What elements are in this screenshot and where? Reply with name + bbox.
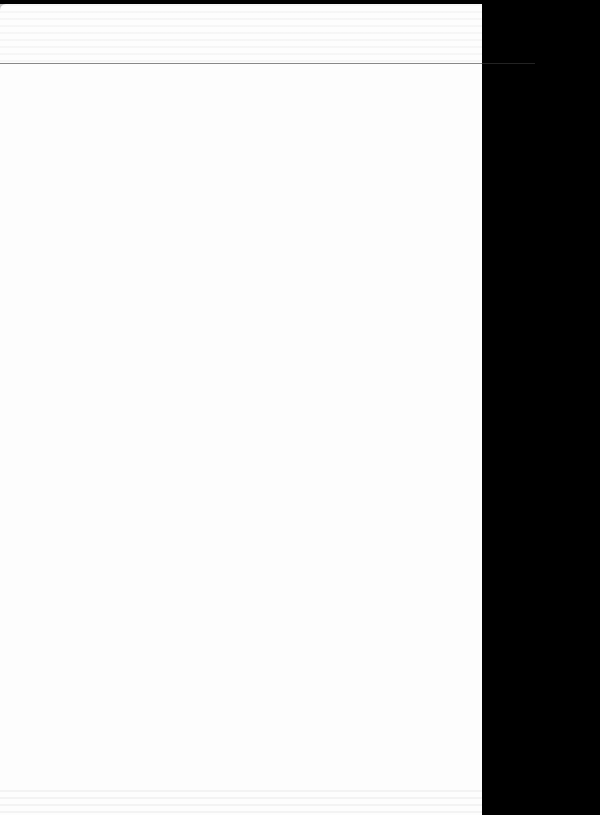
footer-text-area <box>0 785 482 815</box>
document-page <box>0 4 482 815</box>
header-rule <box>0 63 535 64</box>
